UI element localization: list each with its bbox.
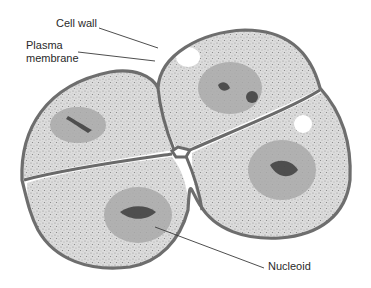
cell-diagram: Cell wall Plasma membrane Nucleoid <box>0 0 371 288</box>
label-nucleoid: Nucleoid <box>268 260 311 272</box>
label-plasma-membrane-line1: Plasma <box>26 39 64 51</box>
granule-dark <box>246 91 258 103</box>
septum-junction <box>172 147 190 157</box>
leader-plasma-membrane <box>78 52 155 61</box>
storage-granule <box>294 115 312 133</box>
label-plasma-membrane-line2: membrane <box>26 52 79 64</box>
leader-cell-wall <box>99 28 158 48</box>
label-cell-wall: Cell wall <box>56 17 97 29</box>
